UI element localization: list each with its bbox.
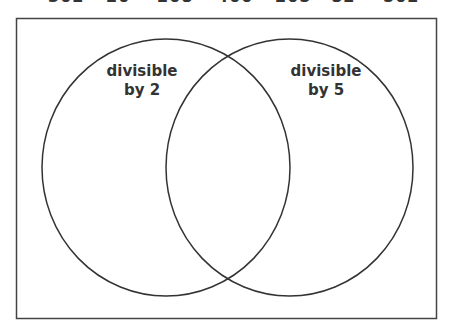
set-label-line1: divisible [100,62,184,81]
set-label-divisible-by-2: divisible by 2 [100,62,184,100]
set-label-divisible-by-5: divisible by 5 [284,62,368,100]
set-label-line2: by 5 [284,81,368,100]
set-label-line2: by 2 [100,81,184,100]
set-label-line1: divisible [284,62,368,81]
universe-box [17,19,437,319]
venn-diagram [0,0,451,327]
